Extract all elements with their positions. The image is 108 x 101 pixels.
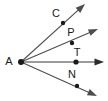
angle-diagram-svg: C P T N A <box>0 0 108 101</box>
point-n-label: N <box>68 68 76 80</box>
point-p-dot <box>70 41 74 45</box>
point-c-label: C <box>52 7 60 19</box>
angle-diagram-canvas: C P T N A <box>0 0 108 101</box>
point-t-dot <box>73 59 78 64</box>
point-t-label: T <box>74 46 81 58</box>
point-c-dot <box>61 21 65 25</box>
point-n-dot <box>75 84 79 88</box>
point-p-label: P <box>67 26 74 38</box>
vertex-a-label: A <box>5 55 13 67</box>
vertex-a-dot <box>18 59 24 65</box>
